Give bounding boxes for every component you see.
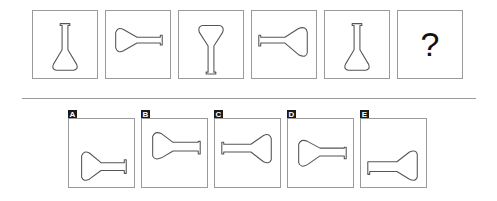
flask-upright-icon	[325, 11, 389, 78]
question-mark: ?	[398, 11, 462, 78]
flask-option-a-icon	[69, 119, 134, 187]
answer-option-e[interactable]	[360, 118, 427, 188]
flask-rotated-right-icon	[106, 11, 170, 78]
answer-option-b[interactable]	[141, 118, 208, 188]
flask-option-b-icon	[142, 119, 207, 187]
sequence-box-6-unknown: ?	[397, 10, 463, 79]
flask-inverted-icon	[179, 11, 243, 78]
answer-option-a[interactable]	[68, 118, 135, 188]
sequence-box-5	[324, 10, 390, 79]
sequence-box-1	[32, 10, 98, 79]
divider	[22, 98, 476, 99]
flask-rotated-left-icon	[252, 11, 316, 78]
flask-upright-icon	[33, 11, 97, 78]
answer-option-c[interactable]	[214, 118, 281, 188]
flask-option-d-icon	[288, 119, 353, 187]
sequence-box-3	[178, 10, 244, 79]
sequence-box-2	[105, 10, 171, 79]
flask-option-e-icon	[361, 119, 426, 187]
sequence-box-4	[251, 10, 317, 79]
answer-option-d[interactable]	[287, 118, 354, 188]
flask-option-c-icon	[215, 119, 280, 187]
